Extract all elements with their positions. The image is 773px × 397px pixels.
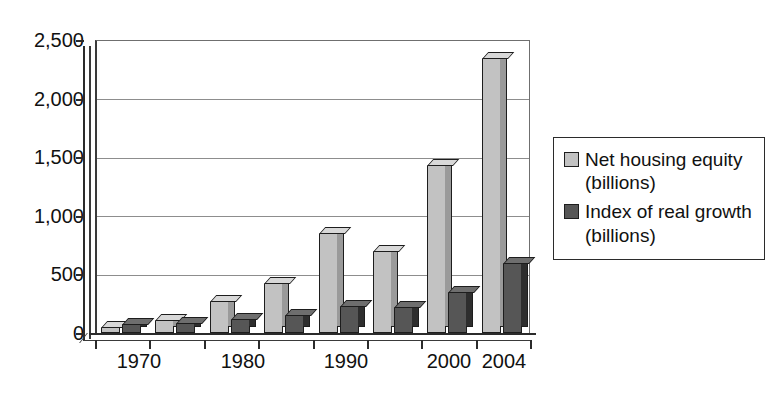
x-tick-mark bbox=[95, 340, 97, 349]
bar-top bbox=[427, 159, 459, 166]
legend-item: Index of real growth (billions) bbox=[564, 200, 754, 246]
x-tick-mark bbox=[149, 340, 151, 349]
y-tick-mark bbox=[76, 157, 84, 159]
x-tick-label: 1990 bbox=[324, 350, 369, 373]
x-tick-label: 1980 bbox=[221, 350, 266, 373]
bar-face bbox=[264, 283, 283, 333]
bar-group bbox=[421, 40, 475, 333]
legend-item-label: Net housing equity (billions) bbox=[585, 148, 754, 194]
bar-group bbox=[313, 40, 367, 333]
x-tick-mark bbox=[367, 340, 369, 349]
legend-item-label: Index of real growth (billions) bbox=[585, 200, 754, 246]
bar-group bbox=[476, 40, 530, 333]
bar-group bbox=[149, 40, 203, 333]
bar-1985-index-of-real-growth bbox=[285, 308, 311, 333]
bar-top bbox=[373, 245, 405, 252]
bar-face bbox=[176, 323, 195, 333]
legend-swatch-icon bbox=[564, 204, 579, 219]
x-tick-mark bbox=[204, 340, 206, 349]
x-tick-mark bbox=[258, 340, 260, 349]
bar-1980-index-of-real-growth bbox=[231, 312, 257, 333]
bar-side bbox=[521, 257, 528, 327]
bar-face bbox=[155, 320, 174, 333]
bar-top bbox=[264, 277, 296, 284]
bar-top bbox=[482, 52, 514, 59]
bar-chart: 2,500 2,000 1,500 1,000 500 0 1970 1980 … bbox=[0, 0, 773, 397]
x-tick-label: 2004 bbox=[482, 350, 527, 373]
bar-face bbox=[427, 165, 446, 333]
bar-face bbox=[482, 58, 501, 333]
bar-face bbox=[210, 301, 229, 333]
bar-1990-index-of-real-growth bbox=[340, 299, 366, 333]
bar-top bbox=[210, 295, 242, 302]
y-tick-mark bbox=[76, 216, 84, 218]
bar-face bbox=[285, 315, 304, 333]
bar-face bbox=[394, 307, 413, 333]
bar-face bbox=[373, 251, 392, 333]
bar-1970-index-of-real-growth bbox=[122, 317, 148, 333]
bar-face bbox=[231, 319, 250, 333]
x-tick-mark bbox=[313, 340, 315, 349]
legend-item: Net housing equity (billions) bbox=[564, 148, 754, 194]
x-tick-mark bbox=[530, 340, 532, 349]
bar-2000-index-of-real-growth bbox=[448, 285, 474, 333]
y-tick-mark bbox=[76, 99, 84, 101]
bar-face bbox=[503, 263, 522, 333]
x-tick-mark bbox=[476, 340, 478, 349]
legend-swatch-icon bbox=[564, 152, 579, 167]
bar-columns bbox=[95, 40, 530, 333]
bar-face bbox=[448, 292, 467, 333]
bar-group bbox=[204, 40, 258, 333]
bar-face bbox=[122, 324, 141, 333]
y-tick-mark bbox=[76, 40, 84, 42]
x-tick-mark bbox=[421, 340, 423, 349]
bar-top bbox=[319, 227, 351, 234]
bar-group bbox=[258, 40, 312, 333]
bar-face bbox=[319, 233, 338, 333]
x-axis-labels: 1970 1980 1990 2000 2004 bbox=[0, 350, 773, 390]
x-tick-label: 2000 bbox=[427, 350, 472, 373]
y-axis-line bbox=[83, 46, 85, 341]
bar-2004-index-of-real-growth bbox=[503, 256, 529, 333]
bar-group bbox=[95, 40, 149, 333]
bar-group bbox=[367, 40, 421, 333]
legend: Net housing equity (billions) Index of r… bbox=[553, 137, 765, 260]
x-tick-label: 1970 bbox=[117, 350, 162, 373]
bar-face bbox=[340, 306, 359, 333]
x-axis-ticks bbox=[0, 333, 773, 347]
y-tick-mark bbox=[76, 274, 84, 276]
bar-1995-index-of-real-growth bbox=[394, 300, 420, 333]
bar-1975-index-of-real-growth bbox=[176, 316, 202, 333]
bar-top bbox=[503, 257, 535, 264]
